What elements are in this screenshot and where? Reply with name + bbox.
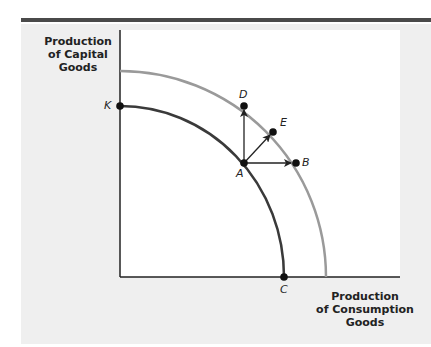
point-k [116,102,124,110]
x-axis-label: Production of Consumption Goods [305,290,425,329]
inner-ppf-curve [120,106,284,277]
point-e [269,128,277,136]
point-c [280,273,288,281]
label-a: A [236,167,244,180]
point-b [292,159,300,167]
point-d [240,102,248,110]
point-a [240,159,248,167]
y-axis-label: Production of Capital Goods [40,35,116,74]
label-b: B [302,156,310,169]
label-e: E [280,116,287,129]
label-c: C [280,283,288,296]
arrow-a-to-e [244,135,270,163]
label-k: K [104,99,111,112]
label-d: D [239,88,247,101]
outer-ppf-curve [120,71,326,277]
